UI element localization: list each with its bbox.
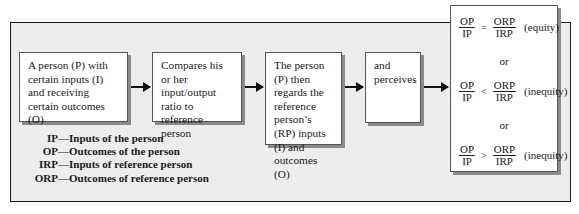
step-regard-box: The person (P) then regards the referenc… (265, 52, 342, 145)
legend-desc: —Inputs of the person (58, 132, 163, 145)
denominator: IRP (496, 28, 513, 39)
operator: = (481, 21, 487, 35)
legend-abbr: OP (14, 145, 58, 158)
legend-abbr: ORP (14, 172, 58, 185)
equation-inequity-greater: OP IP > ORP IRP (inequity) (459, 144, 568, 167)
operator: > (481, 149, 487, 163)
denominator: IP (462, 92, 472, 103)
legend-desc: —Outcomes of the person (58, 145, 180, 158)
inequity-label: (inequity) (524, 149, 567, 163)
arrow-4 (424, 86, 448, 88)
operator: < (481, 85, 487, 99)
or-separator-1: or (451, 55, 557, 69)
legend-item-irp: IRP —Inputs of reference person (14, 158, 209, 171)
legend-desc: —Outcomes of reference person (58, 172, 209, 185)
step-person-box: A person (P) with certain inputs (I) and… (19, 52, 128, 122)
fraction-op-ip: OP IP (459, 16, 475, 39)
outcomes-box: OP IP = ORP IRP (equity) or OP IP < ORP … (450, 5, 558, 172)
denominator: IP (462, 156, 472, 167)
arrow-2 (245, 86, 263, 88)
fraction-orp-irp: ORP IRP (493, 80, 516, 103)
fraction-orp-irp: ORP IRP (493, 16, 516, 39)
step-perceive-box: and perceives (365, 52, 421, 123)
step-person-text: A person (P) with certain inputs (I) and… (28, 59, 108, 125)
step-perceive-text: and perceives (374, 59, 417, 85)
equation-inequity-less: OP IP < ORP IRP (inequity) (459, 80, 568, 103)
denominator: IRP (496, 156, 513, 167)
step-compare-box: Compares his or her input/output ratio t… (152, 52, 242, 122)
arrow-1 (131, 86, 150, 88)
legend-item-ip: IP —Inputs of the person (14, 132, 209, 145)
legend-desc: —Inputs of reference person (58, 158, 192, 171)
fraction-op-ip: OP IP (459, 144, 475, 167)
equity-label: (equity) (524, 21, 559, 35)
denominator: IP (462, 28, 472, 39)
or-separator-2: or (451, 119, 557, 133)
denominator: IRP (496, 92, 513, 103)
arrow-3 (345, 86, 363, 88)
fraction-op-ip: OP IP (459, 80, 475, 103)
equation-equity: OP IP = ORP IRP (equity) (459, 16, 559, 39)
legend: IP —Inputs of the person OP —Outcomes of… (14, 132, 209, 185)
inequity-label: (inequity) (524, 85, 567, 99)
legend-item-op: OP —Outcomes of the person (14, 145, 209, 158)
fraction-orp-irp: ORP IRP (493, 144, 516, 167)
legend-abbr: IP (14, 132, 58, 145)
legend-abbr: IRP (14, 158, 58, 171)
legend-item-orp: ORP —Outcomes of reference person (14, 172, 209, 185)
